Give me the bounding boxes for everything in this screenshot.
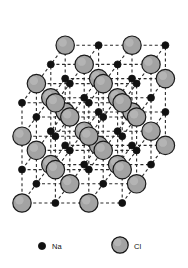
atom-na — [133, 147, 140, 154]
atom-na — [66, 147, 73, 154]
na-sphere — [114, 61, 121, 68]
cl-sphere-highlight — [82, 196, 90, 204]
atom-na — [19, 99, 26, 106]
atom-na — [85, 99, 92, 106]
na-sphere — [33, 114, 40, 121]
cl-sphere-highlight — [63, 177, 71, 185]
atom-cl — [46, 160, 64, 178]
legend-label-na: Na — [52, 242, 62, 251]
na-sphere — [148, 161, 155, 168]
legend-item-na: Na — [38, 242, 62, 251]
cl-sphere-highlight — [159, 138, 167, 146]
atom-cl — [13, 127, 31, 145]
legend-item-cl: Cl — [112, 237, 142, 253]
atom-cl — [113, 94, 131, 112]
cl-sphere-highlight — [115, 96, 123, 104]
na-sphere — [85, 166, 92, 173]
atom-na — [95, 42, 102, 49]
atom-na — [133, 80, 140, 87]
small-black-sphere-icon — [38, 242, 45, 249]
atom-cl — [80, 194, 98, 212]
atom-cl — [46, 94, 64, 112]
atom-cl — [142, 122, 160, 140]
lattice-atom-group — [13, 36, 175, 212]
cl-sphere-highlight — [96, 143, 104, 151]
atom-na — [52, 200, 59, 207]
na-sphere — [19, 166, 26, 173]
atom-cl — [27, 141, 45, 159]
na-sphere — [95, 42, 102, 49]
cl-sphere-highlight — [77, 57, 85, 65]
na-sphere — [133, 80, 140, 87]
atom-cl — [61, 108, 79, 126]
cl-sphere-highlight — [130, 110, 138, 118]
cl-sphere-highlight — [15, 196, 23, 204]
atom-na — [66, 80, 73, 87]
lattice-canvas: NaCl — [0, 0, 188, 268]
cl-sphere-highlight — [49, 163, 57, 171]
cl-sphere-highlight — [159, 72, 167, 80]
na-sphere — [52, 200, 59, 207]
atom-na — [33, 114, 40, 121]
atom-cl — [113, 160, 131, 178]
atom-na — [52, 133, 59, 140]
atom-na — [162, 109, 169, 116]
cl-sphere-highlight — [115, 163, 123, 171]
na-sphere — [66, 80, 73, 87]
atom-na — [148, 161, 155, 168]
legend: NaCl — [38, 237, 141, 253]
atom-na — [148, 94, 155, 101]
atom-cl — [13, 194, 31, 212]
atom-cl — [94, 141, 112, 159]
na-sphere — [47, 61, 54, 68]
atom-na — [100, 180, 107, 187]
na-sphere — [19, 99, 26, 106]
atom-na — [19, 166, 26, 173]
atom-cl — [27, 74, 45, 92]
atom-cl — [127, 108, 145, 126]
na-sphere — [162, 42, 169, 49]
atom-na — [114, 61, 121, 68]
atom-na — [119, 200, 126, 207]
cl-sphere-highlight — [144, 124, 152, 132]
atom-cl — [61, 175, 79, 193]
atom-na — [119, 133, 126, 140]
atom-cl — [75, 55, 93, 73]
cl-sphere-highlight — [58, 38, 66, 46]
na-sphere — [162, 109, 169, 116]
na-sphere — [133, 147, 140, 154]
cl-sphere-highlight — [82, 129, 90, 137]
na-sphere — [100, 114, 107, 121]
atom-na — [162, 42, 169, 49]
cl-sphere-highlight — [96, 77, 104, 85]
atom-cl — [127, 175, 145, 193]
atom-na — [33, 180, 40, 187]
cl-sphere-highlight — [15, 129, 23, 137]
cl-sphere-highlight — [144, 57, 152, 65]
na-sphere — [100, 180, 107, 187]
atom-cl — [80, 127, 98, 145]
legend-label-cl: Cl — [134, 242, 141, 251]
atom-cl — [123, 36, 141, 54]
atom-na — [47, 61, 54, 68]
na-sphere — [33, 180, 40, 187]
atom-cl — [142, 55, 160, 73]
na-sphere — [119, 133, 126, 140]
na-sphere — [119, 200, 126, 207]
atom-cl — [94, 74, 112, 92]
cl-sphere-highlight — [130, 177, 138, 185]
na-sphere — [85, 99, 92, 106]
na-sphere — [148, 94, 155, 101]
cl-sphere-highlight — [63, 110, 71, 118]
na-sphere — [66, 147, 73, 154]
nacl-lattice-figure: NaCl — [0, 0, 188, 268]
cl-sphere-highlight — [30, 77, 38, 85]
cl-sphere-highlight — [30, 143, 38, 151]
atom-cl — [156, 69, 174, 87]
atom-cl — [156, 136, 174, 154]
cl-sphere-highlight — [125, 38, 133, 46]
cl-sphere-highlight — [49, 96, 57, 104]
atom-na — [85, 166, 92, 173]
atom-na — [100, 114, 107, 121]
atom-cl — [56, 36, 74, 54]
